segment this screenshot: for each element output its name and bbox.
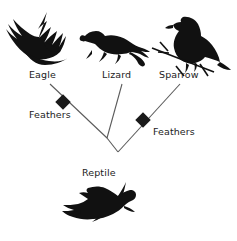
- lizard-silhouette: [80, 31, 150, 66]
- trait-label-feathers-left: Feathers: [29, 109, 71, 120]
- crocodile-silhouette: [62, 182, 136, 222]
- cladogram-figure: Eagle Lizard Sparrow Feathers Feathers R…: [0, 0, 237, 241]
- silhouettes-layer: [0, 0, 237, 241]
- root-label-reptile: Reptile: [82, 167, 116, 178]
- trait-label-feathers-right: Feathers: [153, 126, 195, 137]
- taxon-label-eagle: Eagle: [29, 69, 56, 80]
- perched-sparrow-silhouette: [165, 17, 231, 73]
- flying-eagle-silhouette: [6, 12, 68, 65]
- taxon-label-lizard: Lizard: [102, 69, 131, 80]
- taxon-label-sparrow: Sparrow: [159, 69, 199, 80]
